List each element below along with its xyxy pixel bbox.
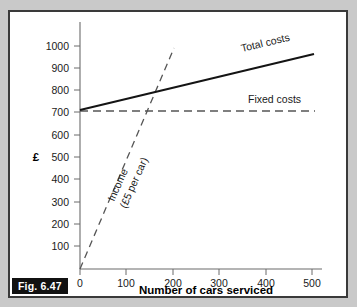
y-tick-label-700: 700: [51, 106, 69, 118]
chart-canvas: 1000 900 800 700 600 500 400 300 200 100…: [10, 12, 346, 296]
y-tick-label-400: 400: [51, 173, 69, 185]
y-tick-label-100: 100: [51, 240, 69, 252]
y-tick-label-200: 200: [51, 218, 69, 230]
y-axis-tick-labels: 1000 900 800 700 600 500 400 300 200 100: [46, 40, 70, 252]
y-tick-label-1000: 1000: [46, 40, 70, 52]
y-tick-label-300: 300: [51, 196, 69, 208]
y-tick-label-800: 800: [51, 84, 69, 96]
series-line-income: [80, 48, 174, 269]
figure-number-badge: Fig. 6.47: [12, 278, 68, 294]
y-axis-title: £: [33, 151, 40, 163]
x-axis-title: Number of cars serviced: [139, 284, 273, 296]
figure-panel: 1000 900 800 700 600 500 400 300 200 100…: [8, 10, 348, 298]
x-tick-label-500: 500: [303, 277, 321, 289]
y-tick-label-600: 600: [51, 129, 69, 141]
x-tick-label-100: 100: [117, 277, 135, 289]
y-axis-ticks: [74, 46, 80, 246]
y-tick-label-900: 900: [51, 62, 69, 74]
x-tick-label-0: 0: [77, 277, 83, 289]
y-tick-label-500: 500: [51, 151, 69, 163]
axes: [80, 22, 322, 269]
series-label-total-costs: Total costs: [240, 31, 291, 54]
x-axis-ticks: [80, 269, 312, 275]
series-label-fixed-costs: Fixed costs: [248, 93, 301, 105]
